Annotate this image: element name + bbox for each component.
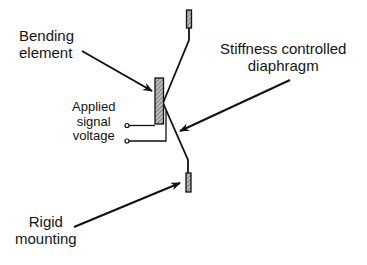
label-line: diaphragm [220, 58, 346, 75]
diaphragm-upper [163, 28, 189, 103]
label-stiffness-diaphragm: Stiffness controlled diaphragm [220, 41, 346, 75]
label-line: Bending [19, 28, 74, 45]
label-bending-element: Bending element [19, 28, 74, 62]
arrow-rigid-mounting [74, 183, 180, 227]
arrow-bending-element [82, 51, 152, 91]
bottom-mount-block [186, 173, 191, 192]
label-line: Rigid [15, 214, 77, 231]
label-line: voltage [72, 129, 115, 144]
label-line: element [19, 45, 74, 62]
label-line: mounting [15, 231, 77, 248]
label-line: Applied [72, 100, 115, 115]
diaphragm-lower [163, 103, 188, 173]
label-line: Stiffness controlled [220, 41, 346, 58]
terminal-1-icon [125, 124, 129, 128]
bending-element [155, 78, 164, 124]
label-line: signal [72, 115, 115, 130]
arrow-diaphragm [180, 80, 290, 131]
label-applied-signal-voltage: Applied signal voltage [72, 100, 115, 144]
top-mount-block [187, 10, 192, 28]
label-rigid-mounting: Rigid mounting [15, 214, 77, 248]
terminal-2-icon [125, 139, 129, 143]
